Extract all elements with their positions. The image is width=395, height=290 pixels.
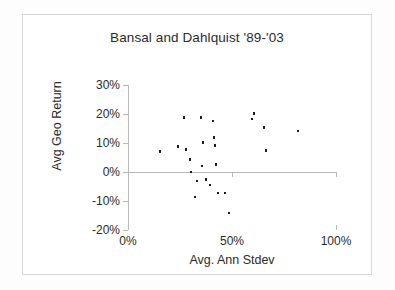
- scatter-point: [183, 116, 186, 119]
- x-tick-label: 50%: [202, 234, 262, 248]
- scatter-point: [159, 150, 162, 153]
- y-tick-mark: [123, 230, 128, 231]
- scatter-point: [190, 171, 193, 174]
- y-tick-label: -10%: [68, 194, 120, 208]
- scatter-point: [263, 126, 266, 129]
- scatter-point: [201, 165, 204, 168]
- y-tick-label: 20%: [68, 107, 120, 121]
- scatter-point: [253, 112, 256, 115]
- chart-frame: Bansal and Dahlquist '89-'03 30%20%10%0%…: [22, 14, 372, 275]
- y-tick-label: 30%: [68, 78, 120, 92]
- y-tick-label: 10%: [68, 136, 120, 150]
- scatter-point: [224, 192, 227, 195]
- scatter-point: [209, 184, 212, 187]
- scatter-point: [205, 178, 208, 181]
- y-tick-label-wrap: 30%: [63, 78, 120, 92]
- scatter-point: [202, 141, 205, 144]
- y-tick-label-wrap: 0%: [63, 165, 120, 179]
- chart-title: Bansal and Dahlquist '89-'03: [23, 30, 371, 45]
- x-tick-label: 0%: [98, 234, 158, 248]
- scatter-plot-area: [128, 85, 336, 230]
- y-tick-label-wrap: 10%: [63, 136, 120, 150]
- scatter-point: [194, 196, 197, 199]
- scatter-point: [177, 145, 180, 148]
- scatter-point: [189, 158, 192, 161]
- x-axis-end-cap: [336, 225, 337, 230]
- scatter-point: [265, 149, 268, 152]
- scatter-point: [212, 120, 215, 123]
- screenshot-page: Bansal and Dahlquist '89-'03 30%20%10%0%…: [0, 0, 395, 290]
- x-axis-title: Avg. Ann Stdev: [128, 253, 336, 267]
- x-tick-label: 100%: [306, 234, 366, 248]
- scatter-point: [215, 163, 218, 166]
- scatter-point: [185, 148, 188, 151]
- scatter-point: [213, 136, 216, 139]
- scatter-point: [251, 118, 254, 121]
- scatter-point: [200, 116, 203, 119]
- scatter-point: [214, 144, 217, 147]
- x-tick-mark: [336, 172, 337, 177]
- scatter-point: [196, 180, 199, 183]
- y-tick-label-wrap: 20%: [63, 107, 120, 121]
- y-tick-label-wrap: -10%: [63, 194, 120, 208]
- scatter-point: [228, 212, 231, 215]
- y-tick-label: 0%: [68, 165, 120, 179]
- scatter-point: [217, 192, 220, 195]
- y-axis-title: Avg Geo Return: [50, 46, 64, 206]
- scatter-point: [297, 130, 300, 133]
